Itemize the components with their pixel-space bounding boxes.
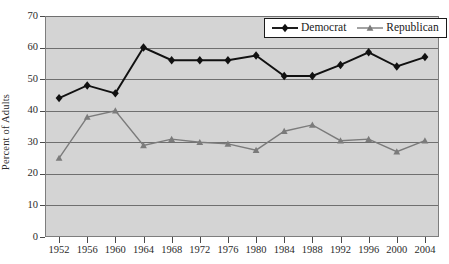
diamond-marker-icon — [253, 51, 260, 59]
chart-figure: Percent of Adults 010203040506070 195219… — [0, 0, 449, 264]
diamond-marker-icon — [282, 24, 289, 32]
diamond-marker-icon — [281, 72, 288, 80]
diamond-marker-icon — [196, 56, 203, 64]
legend-swatch — [272, 22, 298, 34]
triangle-marker-icon — [309, 122, 316, 128]
data-series-layer — [0, 0, 449, 264]
legend-label: Democrat — [301, 22, 346, 34]
series-republican — [56, 107, 429, 161]
diamond-marker-icon — [421, 53, 428, 61]
chart-legend: DemocratRepublican — [264, 18, 447, 38]
diamond-marker-icon — [224, 56, 231, 64]
series-line — [59, 48, 425, 99]
triangle-marker-icon — [112, 107, 119, 113]
legend-label: Republican — [386, 22, 438, 34]
legend-swatch — [357, 22, 383, 34]
diamond-marker-icon — [337, 61, 344, 69]
diamond-marker-icon — [393, 62, 400, 70]
diamond-marker-icon — [309, 72, 316, 80]
diamond-marker-icon — [84, 81, 91, 89]
diamond-marker-icon — [365, 48, 372, 56]
series-line — [59, 111, 425, 158]
triangle-marker-icon — [422, 137, 429, 143]
legend-entry-democrat: Democrat — [272, 22, 346, 34]
series-democrat — [56, 43, 429, 102]
legend-entry-republican: Republican — [357, 22, 438, 34]
diamond-marker-icon — [168, 56, 175, 64]
diamond-marker-icon — [56, 94, 63, 102]
